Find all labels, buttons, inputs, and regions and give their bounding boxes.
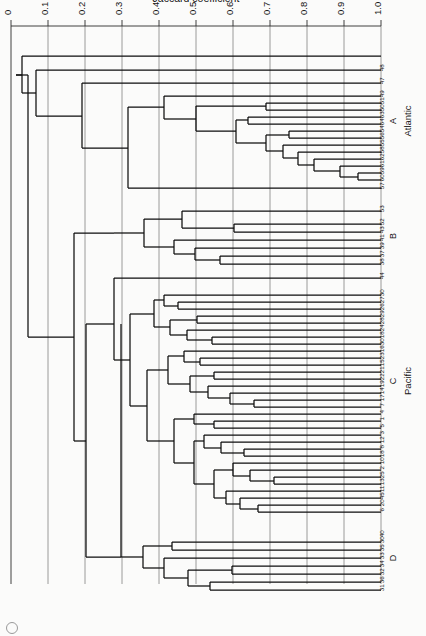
tick-label: 0.2 (76, 2, 87, 15)
x-axis-title: Jaccard coefficient (153, 0, 240, 4)
group-labels: D C B A (388, 118, 398, 561)
leaf-label: 4 (378, 410, 385, 414)
leaf-label: 7 (378, 403, 385, 407)
figure-circle-mark (6, 622, 18, 634)
leaf-label: 8 (378, 445, 385, 449)
figure-canvas: 1.0 0.9 0.8 0.7 0.6 0.5 0.4 0.3 0.2 0.1 … (0, 0, 426, 636)
leaf-label: 6 (378, 508, 385, 512)
leaf-label: 3 (378, 431, 385, 435)
ocean-labels: Pacific Atlantic (402, 105, 413, 395)
leaf-label: 5 (378, 424, 385, 428)
dendrogram-links (16, 56, 381, 590)
leaf-label: 40 (378, 530, 385, 537)
dendrogram-svg: 1.0 0.9 0.8 0.7 0.6 0.5 0.4 0.3 0.2 0.1 … (0, 0, 426, 636)
group-label-d: D (388, 554, 398, 561)
tick-label: 0.3 (113, 2, 124, 15)
ocean-label-atlantic: Atlantic (402, 105, 413, 136)
tick-label: 0.8 (298, 2, 309, 15)
leaf-label: 1 (378, 417, 385, 421)
tick-label: 0.1 (39, 2, 50, 15)
dendrogram-figure: 1.0 0.9 0.8 0.7 0.6 0.5 0.4 0.3 0.2 0.1 … (0, 0, 426, 636)
tick-label: 0.9 (335, 2, 346, 15)
tick-label: 0 (2, 10, 13, 15)
group-label-b: B (388, 233, 398, 239)
tick-label: 0.7 (261, 2, 272, 15)
leaf-label: 2 (378, 466, 385, 470)
axis-ticks (11, 20, 381, 26)
ocean-label-pacific: Pacific (402, 367, 413, 395)
group-label-a: A (388, 118, 398, 124)
group-label-c: C (388, 377, 398, 384)
tick-label: 1.0 (372, 2, 383, 15)
